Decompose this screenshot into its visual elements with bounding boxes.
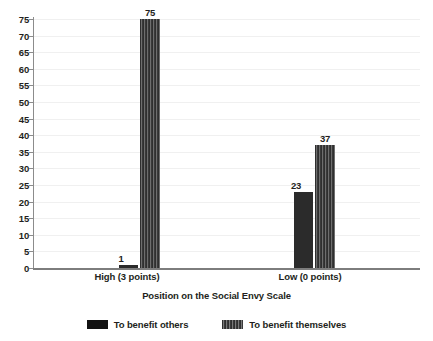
y-tick-label: 65 xyxy=(3,47,29,58)
y-tick-label: 50 xyxy=(3,97,29,108)
y-tick-label: 75 xyxy=(3,14,29,25)
gridline xyxy=(33,218,420,219)
y-tick-label: 35 xyxy=(3,146,29,157)
y-tick-label: 60 xyxy=(3,63,29,74)
gridline xyxy=(33,168,420,169)
bar-chart: 75 70 65 60 55 50 45 40 35 30 25 20 15 1… xyxy=(0,0,433,341)
gridline xyxy=(33,69,420,70)
gridline xyxy=(33,19,420,20)
gridline xyxy=(33,251,420,252)
x-category-label-high: High (3 points) xyxy=(67,271,187,282)
gridline xyxy=(33,102,420,103)
y-tick-label: 25 xyxy=(3,180,29,191)
legend-swatch-solid-icon xyxy=(87,320,108,329)
plot-area xyxy=(33,19,420,268)
legend-item-benefit-others: To benefit others xyxy=(87,319,189,330)
bar-value-label: 23 xyxy=(286,180,306,191)
x-axis-line xyxy=(33,268,420,270)
y-tick-label: 0 xyxy=(3,263,29,274)
gridline xyxy=(33,235,420,236)
y-tick-label: 40 xyxy=(3,130,29,141)
y-tick-label: 70 xyxy=(3,30,29,41)
legend-label-benefit-themselves: To benefit themselves xyxy=(249,319,346,330)
gridline xyxy=(33,52,420,53)
y-tick-label: 55 xyxy=(3,80,29,91)
gridline xyxy=(33,202,420,203)
bar-low-benefit-themselves xyxy=(315,145,335,268)
y-tick-label: 30 xyxy=(3,163,29,174)
legend-swatch-striped-icon xyxy=(222,320,243,329)
chart-legend: To benefit others To benefit themselves xyxy=(0,319,433,330)
bar-high-benefit-themselves xyxy=(140,19,160,268)
y-tick-label: 45 xyxy=(3,113,29,124)
y-axis-line xyxy=(33,17,34,269)
gridline xyxy=(33,85,420,86)
bar-value-label: 75 xyxy=(140,7,160,18)
y-tick-label: 5 xyxy=(3,246,29,257)
x-category-label-low: Low (0 points) xyxy=(255,271,365,282)
bar-value-label: 1 xyxy=(111,253,131,264)
gridline xyxy=(33,152,420,153)
gridline xyxy=(33,119,420,120)
bar-low-benefit-others xyxy=(294,192,313,268)
bar-value-label: 37 xyxy=(315,133,335,144)
gridline xyxy=(33,135,420,136)
gridline xyxy=(33,36,420,37)
y-tick-label: 20 xyxy=(3,196,29,207)
y-tick-label: 10 xyxy=(3,229,29,240)
y-tick-label: 15 xyxy=(3,213,29,224)
legend-item-benefit-themselves: To benefit themselves xyxy=(222,319,346,330)
x-axis-title: Position on the Social Envy Scale xyxy=(0,290,433,301)
gridline xyxy=(33,185,420,186)
legend-label-benefit-others: To benefit others xyxy=(114,319,189,330)
